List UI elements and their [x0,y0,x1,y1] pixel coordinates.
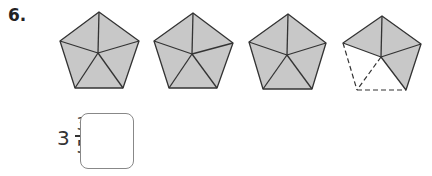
pentagon-2 [154,13,233,88]
pentagon-figure [0,0,432,100]
pentagon-1 [60,12,139,88]
pentagon-3 [249,14,326,89]
pentagon-4 [343,16,421,90]
answer-box[interactable] [80,113,134,169]
whole-number: 3 [57,126,70,150]
